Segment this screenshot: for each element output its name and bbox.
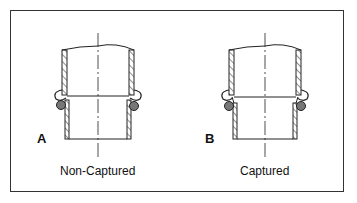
panel-b-drawing [222, 33, 308, 160]
panel-a-drawing [55, 33, 141, 160]
panel-b-label: B [205, 131, 214, 146]
coupling-diagrams [0, 0, 357, 203]
panel-a-label: A [37, 131, 46, 146]
panel-a-caption: Non-Captured [60, 164, 135, 178]
panel-b-caption: Captured [240, 164, 289, 178]
